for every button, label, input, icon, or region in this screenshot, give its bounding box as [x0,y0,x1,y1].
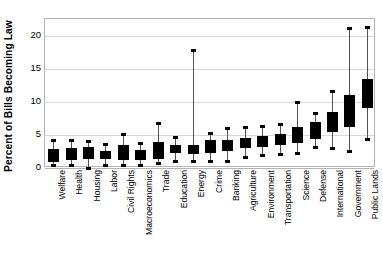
box-plot-health [63,19,80,166]
box-iqr [83,147,94,159]
box-iqr [275,134,286,145]
whisker-cap-upper [347,27,352,30]
whisker-cap-upper [330,90,335,93]
whisker-cap-upper [69,139,74,142]
whisker-cap-upper [138,142,143,145]
y-tick-label: 10 [5,96,41,105]
x-tick-health: Health [62,170,79,256]
box-plot-transportation [272,19,289,166]
box-plot-international [324,19,341,166]
box-iqr [66,148,77,160]
box-plot-energy [185,19,202,166]
whisker-cap-lower [330,147,335,150]
box-iqr [257,136,268,147]
x-tick-banking: Banking [218,170,235,256]
x-tick-label: Public Lands [370,170,380,219]
box-iqr [240,138,251,149]
x-tick-government: Government [340,170,357,256]
box-iqr [153,142,164,159]
whisker-cap-upper [313,112,318,115]
whisker-cap-upper [156,122,161,125]
whisker-cap-upper [365,26,370,29]
box-iqr [100,151,111,159]
whisker-cap-lower [243,156,248,159]
whisker-cap-upper [173,136,178,139]
x-tick-energy: Energy [184,170,201,256]
box-iqr [292,127,303,143]
box-iqr [135,150,146,160]
whisker-cap-lower [225,160,230,163]
whisker-cap-upper [225,127,230,130]
boxplot-figure: Percent of Bills Becoming Law 05101520 W… [0,0,383,258]
y-axis-ticks: 05101520 [0,18,41,167]
whisker-lower [367,108,368,138]
x-tick-science: Science [288,170,305,256]
whisker-cap-lower [138,164,143,167]
whisker-cap-lower [347,150,352,153]
whisker-cap-lower [173,160,178,163]
box-iqr [310,122,321,139]
x-tick-macroeconomics: Macroeconomics [131,170,148,256]
x-tick-defense: Defense [306,170,323,256]
box-plot-crime [202,19,219,166]
whisker-cap-upper [295,101,300,104]
box-plot-government [341,19,358,166]
whisker-cap-lower [191,160,196,163]
box-iqr [188,145,199,154]
box-iqr [170,145,181,154]
whisker-cap-upper [278,123,283,126]
whisker-upper [297,102,298,127]
y-tick-label: 15 [5,63,41,72]
x-axis-labels: WelfareHealthHousingLaborCivil RightsMac… [44,170,375,258]
whisker-cap-upper [243,126,248,129]
x-tick-transportation: Transportation [271,170,288,256]
box-plot-defense [307,19,324,166]
whisker-cap-lower [365,138,370,141]
whisker-upper [158,123,159,142]
y-tick-label: 0 [5,162,41,171]
plot-area [44,18,375,167]
whisker-cap-upper [208,132,213,135]
whisker-upper [193,50,194,145]
x-tick-labor: Labor [96,170,113,256]
box-plot-housing [80,19,97,166]
box-plot-civil-rights [115,19,132,166]
box-plot-macroeconomics [132,19,149,166]
x-tick-welfare: Welfare [44,170,61,256]
box-plot-labor [97,19,114,166]
box-plot-science [289,19,306,166]
whisker-upper [367,27,368,79]
whisker-cap-lower [156,162,161,165]
y-tick-label: 20 [5,30,41,39]
whisker-cap-lower [51,164,56,167]
box-plot-environment [254,19,271,166]
box-plot-agriculture [237,19,254,166]
whisker-cap-lower [313,146,318,149]
whisker-lower [332,132,333,148]
x-tick-crime: Crime [201,170,218,256]
x-tick-civil-rights: Civil Rights [114,170,131,256]
x-tick-environment: Environment [253,170,270,256]
y-tick-label: 5 [5,129,41,138]
whisker-cap-lower [295,152,300,155]
box-iqr [222,140,233,152]
whisker-cap-lower [121,164,126,167]
whisker-cap-lower [260,154,265,157]
whisker-cap-lower [103,164,108,167]
x-tick-international: International [323,170,340,256]
box-iqr [362,79,373,108]
whisker-upper [332,91,333,112]
whisker-cap-upper [86,140,91,143]
x-tick-agriculture: Agriculture [236,170,253,256]
x-tick-public-lands: Public Lands [358,170,375,256]
box-iqr [327,112,338,133]
x-tick-housing: Housing [79,170,96,256]
whisker-upper [349,28,350,95]
x-tick-trade: Trade [149,170,166,256]
x-tick-education: Education [166,170,183,256]
box-iqr [48,149,59,162]
whisker-cap-upper [103,143,108,146]
whisker-cap-upper [260,125,265,128]
whisker-cap-upper [191,49,196,52]
box-plot-trade [150,19,167,166]
